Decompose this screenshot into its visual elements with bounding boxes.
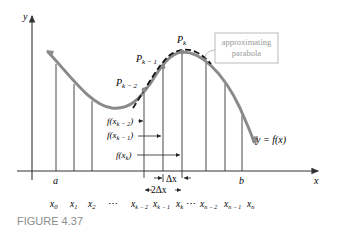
ordinate-lines	[56, 52, 242, 178]
svg-text:x2: x2	[87, 199, 96, 210]
svg-text:xn: xn	[246, 199, 254, 210]
label-b: b	[239, 175, 244, 186]
svg-text:xk − 2: xk − 2	[130, 199, 148, 210]
label-pk-2: Pk − 2	[115, 77, 137, 90]
simpson-rule-figure: Pk − 2 Pk − 1 Pk approximating parabola …	[0, 0, 340, 241]
callout-line1: approximating	[222, 37, 272, 47]
svg-text:xk − 1: xk − 1	[152, 199, 170, 210]
point-pk	[180, 50, 185, 55]
label-a: a	[53, 175, 58, 186]
svg-text:xn − 2: xn − 2	[199, 199, 217, 210]
x-axis-label: x	[313, 175, 319, 186]
callout-line2: parabola	[232, 48, 261, 58]
tick-labels: x0 x1 x2 ⋯ xk − 2 xk − 1 xk ⋯ xn − 2 xn …	[49, 199, 254, 210]
label-f-xk: f(xk)	[116, 150, 131, 161]
svg-text:xn − 1: xn − 1	[223, 199, 241, 210]
two-dx-label: 2Δx	[151, 185, 167, 195]
dx-label: Δx	[166, 174, 177, 184]
point-pk-1	[161, 65, 166, 70]
y-axis-label: y	[22, 11, 28, 22]
svg-text:⋯: ⋯	[186, 199, 196, 209]
point-pk-2	[142, 88, 147, 93]
label-f-xk-1: f(xk − 1)	[107, 130, 133, 141]
svg-text:xk: xk	[175, 199, 183, 210]
label-pk-1: Pk − 1	[135, 53, 157, 66]
label-f-xk-2: f(xk − 2)	[107, 116, 133, 127]
label-pk: Pk	[176, 34, 187, 47]
curve-label: y = f(x)	[255, 134, 287, 146]
figure-caption: FIGURE 4.37	[17, 215, 83, 227]
svg-text:⋯: ⋯	[108, 199, 118, 209]
svg-text:x1: x1	[69, 199, 77, 210]
svg-text:x0: x0	[49, 199, 58, 210]
